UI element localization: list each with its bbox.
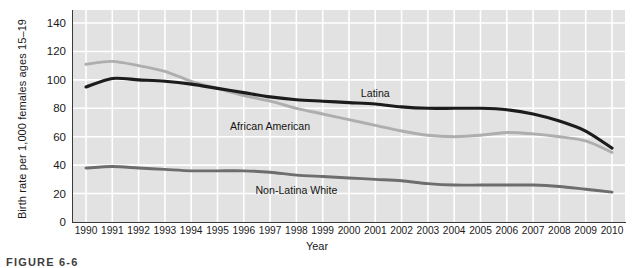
x-axis-tick-label: 2002 — [390, 225, 413, 236]
x-axis-title: Year — [0, 240, 634, 252]
y-axis-tick-label: 40 — [53, 159, 66, 171]
x-axis-tick-label: 2005 — [469, 225, 492, 236]
y-axis-tick-label: 80 — [53, 102, 66, 114]
y-axis-line — [72, 10, 73, 223]
x-axis-tick-label: 2001 — [364, 225, 387, 236]
x-axis-tick-label: 1993 — [154, 225, 177, 236]
plot-area: LatinaAfrican AmericanNon-Latina White — [73, 10, 625, 222]
y-axis-tick-label: 20 — [53, 188, 66, 200]
y-axis-tick-labels: 020406080100120140 — [26, 0, 66, 240]
x-axis-tick-label: 1996 — [232, 225, 255, 236]
chart-svg — [73, 10, 625, 222]
gridlines-vertical — [86, 10, 612, 222]
y-axis-tick-label: 140 — [47, 17, 66, 29]
x-axis-tick-label: 1997 — [259, 225, 282, 236]
x-axis-tick-label: 1998 — [285, 225, 308, 236]
x-axis-tick-label: 1991 — [101, 225, 124, 236]
x-axis-tick-label: 1995 — [206, 225, 229, 236]
y-axis-tick-label: 0 — [60, 216, 66, 228]
y-axis-tick-label: 120 — [47, 45, 66, 57]
y-axis-tick-label: 60 — [53, 131, 66, 143]
series-annotation-label: Non-Latina White — [255, 184, 337, 196]
x-axis-tick-label: 2009 — [574, 225, 597, 236]
y-axis-tick-label: 100 — [47, 74, 66, 86]
series-annotation-label: Latina — [361, 87, 390, 99]
x-axis-tick-label: 1990 — [75, 225, 98, 236]
x-axis-tick-label: 1994 — [180, 225, 203, 236]
x-axis-tick-label: 2006 — [495, 225, 518, 236]
series-annotation-label: African American — [230, 120, 310, 132]
figure-caption: FIGURE 6-6 — [6, 256, 79, 268]
x-axis-line — [72, 222, 626, 223]
x-axis-tick-label: 1999 — [311, 225, 334, 236]
x-axis-tick-label: 2007 — [522, 225, 545, 236]
x-axis-tick-label: 2003 — [417, 225, 440, 236]
x-axis-tick-label: 2008 — [548, 225, 571, 236]
x-axis-tick-label: 2004 — [443, 225, 466, 236]
x-axis-tick-labels: 1990199119921993199419951996199719981999… — [73, 225, 625, 241]
x-axis-tick-label: 2000 — [338, 225, 361, 236]
x-axis-tick-label: 1992 — [127, 225, 150, 236]
x-axis-tick-label: 2010 — [601, 225, 624, 236]
